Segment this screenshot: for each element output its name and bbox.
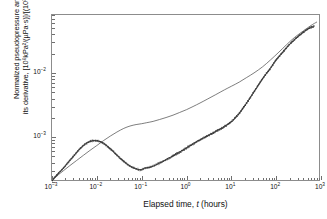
- x-tick-minor: [245, 178, 246, 181]
- y-tick-minor: [52, 107, 55, 108]
- y-tick-minor: [52, 182, 55, 183]
- x-tick-major: [52, 176, 53, 180]
- y-tick-minor: [52, 143, 55, 144]
- y-tick-minor: [52, 92, 55, 93]
- y-tick-minor: [52, 15, 55, 16]
- x-tick-minor: [95, 178, 96, 181]
- x-tick-label: 10−1: [134, 183, 147, 190]
- figure-container: Normalized pseudopressure and its deriva…: [0, 0, 327, 219]
- y-tick-minor: [52, 163, 55, 164]
- x-tick-minor: [163, 178, 164, 181]
- x-tick-minor: [224, 178, 225, 181]
- x-tick-minor: [137, 178, 138, 181]
- x-tick-minor: [272, 178, 273, 181]
- x-tick-minor: [90, 178, 91, 181]
- y-tick-minor: [52, 54, 55, 55]
- x-tick-minor: [221, 178, 222, 181]
- x-tick-minor: [274, 178, 275, 181]
- x-tick-minor: [155, 178, 156, 181]
- y-tick-minor: [52, 99, 55, 100]
- y-tick-label: 10−3: [33, 132, 46, 139]
- x-tick-minor: [200, 178, 201, 181]
- x-tick-minor: [303, 178, 304, 181]
- x-tick-minor: [229, 178, 230, 181]
- x-tick-label: 10−2: [89, 183, 102, 190]
- x-tick-label: 100: [181, 183, 191, 190]
- x-tick-label: 102: [270, 183, 280, 190]
- y-tick-minor: [52, 151, 55, 152]
- x-tick-minor: [298, 178, 299, 181]
- plot-area: [51, 14, 320, 181]
- x-tick-minor: [124, 178, 125, 181]
- x-tick-minor: [269, 178, 270, 181]
- y-axis-title: Normalized pseudopressure and its deriva…: [13, 0, 39, 127]
- x-tick-minor: [128, 178, 129, 181]
- x-tick-minor: [92, 178, 93, 181]
- x-tick-minor: [317, 178, 318, 181]
- x-tick-major: [321, 176, 322, 180]
- y-tick-major: [52, 137, 56, 138]
- x-tick-minor: [218, 178, 219, 181]
- derivative-point-cloud: [52, 26, 314, 181]
- y-tick-minor: [52, 34, 55, 35]
- x-tick-minor: [135, 178, 136, 181]
- x-tick-major: [276, 176, 277, 180]
- x-tick-minor: [118, 178, 119, 181]
- plot-canvas: [52, 15, 321, 182]
- x-tick-minor: [73, 178, 74, 181]
- y-tick-minor: [52, 171, 55, 172]
- y-tick-minor: [52, 28, 55, 29]
- x-tick-minor: [266, 178, 267, 181]
- x-tick-label: 10−3: [45, 183, 58, 190]
- x-tick-minor: [311, 178, 312, 181]
- x-tick-minor: [87, 178, 88, 181]
- series-line: [52, 22, 317, 181]
- x-tick-major: [187, 176, 188, 180]
- y-tick-minor: [52, 83, 55, 84]
- x-tick-minor: [169, 178, 170, 181]
- x-tick-minor: [140, 178, 141, 181]
- y-axis-title-line2: its derivative, [10⁶kPa²/(µPa·s)]/[(10³m…: [22, 0, 31, 127]
- x-tick-minor: [213, 178, 214, 181]
- x-tick-minor: [182, 178, 183, 181]
- x-tick-minor: [308, 178, 309, 181]
- x-tick-minor: [180, 178, 181, 181]
- x-tick-minor: [290, 178, 291, 181]
- series-layer: [52, 22, 317, 181]
- y-tick-minor: [52, 42, 55, 43]
- x-tick-major: [97, 176, 98, 180]
- y-tick-minor: [52, 19, 55, 20]
- y-tick-minor: [52, 87, 55, 88]
- y-tick-major: [52, 73, 56, 74]
- y-tick-minor: [52, 79, 55, 80]
- y-tick-label: 10−2: [33, 68, 46, 75]
- series-line: [52, 26, 314, 181]
- x-tick-minor: [65, 178, 66, 181]
- x-tick-minor: [263, 178, 264, 181]
- y-tick-minor: [52, 147, 55, 148]
- y-tick-minor: [52, 23, 55, 24]
- x-tick-minor: [177, 178, 178, 181]
- x-tick-minor: [208, 178, 209, 181]
- x-tick-major: [142, 176, 143, 180]
- x-tick-minor: [173, 178, 174, 181]
- series-derivative: [52, 26, 314, 181]
- y-tick-minor: [52, 118, 55, 119]
- x-tick-minor: [79, 178, 80, 181]
- y-tick-minor: [52, 156, 55, 157]
- x-tick-major: [231, 176, 232, 180]
- x-tick-minor: [253, 178, 254, 181]
- x-tick-minor: [314, 178, 315, 181]
- x-tick-minor: [319, 178, 320, 181]
- x-tick-label: 101: [225, 183, 235, 190]
- x-tick-minor: [184, 178, 185, 181]
- series-pseudopressure: [52, 22, 317, 181]
- x-tick-minor: [83, 178, 84, 181]
- x-tick-minor: [258, 178, 259, 181]
- x-tick-label: 103: [315, 183, 325, 190]
- x-axis-title: Elapsed time, t (hours): [51, 199, 320, 209]
- y-tick-minor: [52, 140, 55, 141]
- y-tick-minor: [52, 76, 55, 77]
- x-tick-minor: [227, 178, 228, 181]
- x-tick-minor: [132, 178, 133, 181]
